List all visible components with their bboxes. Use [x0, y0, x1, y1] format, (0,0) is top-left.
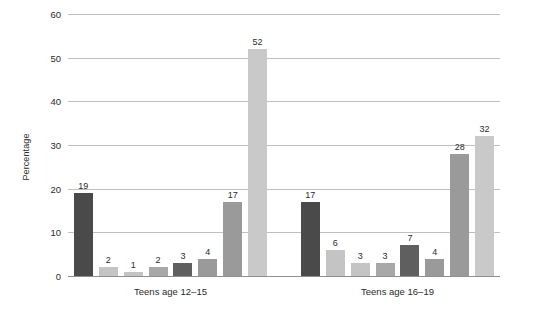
bar-value-label: 2 — [156, 255, 161, 265]
bar-value-label: 3 — [180, 251, 185, 261]
y-tick-label: 30 — [50, 140, 61, 151]
y-tick-label: 10 — [50, 227, 61, 238]
plot-area: 0102030405060 1921234175217633742832 — [68, 14, 500, 276]
y-axis-title: Percentage — [21, 102, 31, 212]
group-label: Teens age 12–15 — [134, 286, 207, 297]
y-tick-label: 0 — [56, 271, 61, 282]
bar: 32 — [475, 136, 494, 276]
bar-value-label: 28 — [455, 142, 465, 152]
bar: 6 — [326, 250, 345, 276]
bars-layer: 1921234175217633742832 — [68, 14, 500, 276]
bar: 2 — [149, 267, 168, 276]
bar: 19 — [74, 193, 93, 276]
bar-value-label: 32 — [480, 124, 490, 134]
bar: 4 — [198, 259, 217, 276]
bar: 52 — [248, 49, 267, 276]
gridline-0 — [68, 276, 500, 277]
bar: 7 — [400, 245, 419, 276]
bar-value-label: 2 — [106, 255, 111, 265]
bar: 1 — [124, 272, 143, 276]
bar: 3 — [351, 263, 370, 276]
y-tick-label: 20 — [50, 183, 61, 194]
bar-value-label: 4 — [205, 247, 210, 257]
bar: 2 — [99, 267, 118, 276]
y-tick-label: 60 — [50, 9, 61, 20]
bar-value-label: 17 — [228, 190, 238, 200]
bar-value-label: 7 — [407, 233, 412, 243]
bar-value-label: 4 — [432, 247, 437, 257]
bar-chart: Percentage 0102030405060 192123417521763… — [0, 0, 536, 321]
bar-value-label: 19 — [78, 181, 88, 191]
bar-value-label: 17 — [305, 190, 315, 200]
bar: 17 — [223, 202, 242, 276]
bar: 3 — [173, 263, 192, 276]
bar-value-label: 3 — [383, 251, 388, 261]
bar: 3 — [376, 263, 395, 276]
bar: 4 — [425, 259, 444, 276]
y-tick-label: 40 — [50, 96, 61, 107]
bar: 17 — [301, 202, 320, 276]
group-label: Teens age 16–19 — [361, 286, 434, 297]
bar-value-label: 52 — [253, 37, 263, 47]
bar: 28 — [450, 154, 469, 276]
y-tick-label: 50 — [50, 52, 61, 63]
bar-value-label: 3 — [358, 251, 363, 261]
bar-value-label: 6 — [333, 238, 338, 248]
bar-value-label: 1 — [131, 260, 136, 270]
